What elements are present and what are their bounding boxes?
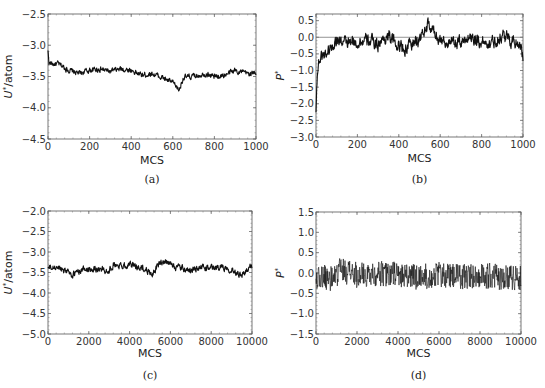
x-tick-label: 4000 xyxy=(385,336,410,347)
data-series-line xyxy=(316,18,523,112)
y-tick-label: −4.5 xyxy=(22,134,46,145)
x-tick-label: 400 xyxy=(389,139,408,150)
y-tick-label: 0.0 xyxy=(298,268,314,279)
chart-d-pressure-vs-mcs-long: 02000400060008000100001.51.00.50.0−0.5−1… xyxy=(272,194,545,388)
x-tick-label: 600 xyxy=(431,139,450,150)
chart-b-pressure-vs-mcs: 020040060080010000.50.0−0.5−1.0−1.5−2.0−… xyxy=(272,0,545,194)
x-tick-label: 600 xyxy=(163,141,182,152)
y-axis-label: P* xyxy=(274,70,287,81)
plot-frame xyxy=(316,14,523,137)
y-tick-label: 0.5 xyxy=(298,247,314,258)
x-tick-label: 8000 xyxy=(198,336,223,347)
y-tick-label: −3.0 xyxy=(22,40,46,51)
y-tick-label: −2.0 xyxy=(290,98,314,109)
x-tick-label: 400 xyxy=(122,141,141,152)
y-tick-label: −2.0 xyxy=(22,206,46,217)
y-tick-label: −2.5 xyxy=(22,9,46,20)
y-tick-label: −0.5 xyxy=(290,288,314,299)
y-tick-label: −4.5 xyxy=(22,308,46,319)
y-tick-label: −2.5 xyxy=(22,226,46,237)
data-series-line xyxy=(48,50,256,91)
panel-b: 020040060080010000.50.0−0.5−1.0−1.5−2.0−… xyxy=(272,0,545,194)
y-tick-label: 0.0 xyxy=(298,32,314,43)
y-tick-label: 0.5 xyxy=(298,15,314,26)
x-axis-label: MCS xyxy=(406,347,430,360)
panel-a: 02004006008001000−2.5−3.0−3.5−4.0−4.5MCS… xyxy=(0,0,272,194)
x-tick-label: 200 xyxy=(80,141,99,152)
x-tick-label: 10000 xyxy=(505,336,537,347)
x-tick-label: 8000 xyxy=(467,336,492,347)
y-tick-label: −1.0 xyxy=(290,308,314,319)
chart-c-energy-vs-mcs-long: 0200040006000800010000−2.0−2.5−3.0−3.5−4… xyxy=(0,194,272,388)
y-tick-label: −1.5 xyxy=(290,82,314,93)
y-tick-label: −3.0 xyxy=(22,247,46,258)
chart-a-energy-vs-mcs: 02004006008001000−2.5−3.0−3.5−4.0−4.5MCS… xyxy=(0,0,272,194)
y-tick-label: −3.5 xyxy=(22,71,46,82)
x-tick-label: 4000 xyxy=(117,336,142,347)
x-tick-label: 1000 xyxy=(243,141,268,152)
y-tick-label: −1.5 xyxy=(290,329,314,340)
y-tick-label: −3.0 xyxy=(290,132,314,143)
x-tick-label: 200 xyxy=(348,139,367,150)
x-tick-label: 1000 xyxy=(510,139,535,150)
y-tick-label: −0.5 xyxy=(290,48,314,59)
x-tick-label: 10000 xyxy=(236,336,268,347)
data-series-line xyxy=(316,258,521,290)
y-tick-label: −4.0 xyxy=(22,288,46,299)
y-axis-label: P* xyxy=(274,267,287,278)
subfigure-caption: (c) xyxy=(143,369,158,382)
y-tick-label: −1.0 xyxy=(290,65,314,76)
x-tick-label: 800 xyxy=(472,139,491,150)
x-tick-label: 6000 xyxy=(158,336,183,347)
y-tick-label: 1.5 xyxy=(298,207,314,218)
y-axis-label: U*/atom xyxy=(2,55,15,99)
y-axis-label: U*/atom xyxy=(2,251,15,295)
x-tick-label: 2000 xyxy=(344,336,369,347)
subfigure-caption: (d) xyxy=(411,369,427,382)
x-tick-label: 2000 xyxy=(76,336,101,347)
panel-c: 0200040006000800010000−2.0−2.5−3.0−3.5−4… xyxy=(0,194,272,388)
y-tick-label: −2.5 xyxy=(290,115,314,126)
subfigure-caption: (b) xyxy=(412,173,428,186)
y-tick-label: −3.5 xyxy=(22,267,46,278)
x-axis-label: MCS xyxy=(138,347,162,360)
x-axis-label: MCS xyxy=(140,154,164,167)
y-tick-label: 1.0 xyxy=(298,227,314,238)
x-tick-label: 6000 xyxy=(426,336,451,347)
data-series-line xyxy=(48,260,252,278)
x-tick-label: 800 xyxy=(205,141,224,152)
subfigure-caption: (a) xyxy=(144,173,159,186)
panel-d: 02000400060008000100001.51.00.50.0−0.5−1… xyxy=(272,194,545,388)
y-tick-label: −4.0 xyxy=(22,102,46,113)
x-axis-label: MCS xyxy=(407,152,431,165)
y-tick-label: −5.0 xyxy=(22,329,46,340)
